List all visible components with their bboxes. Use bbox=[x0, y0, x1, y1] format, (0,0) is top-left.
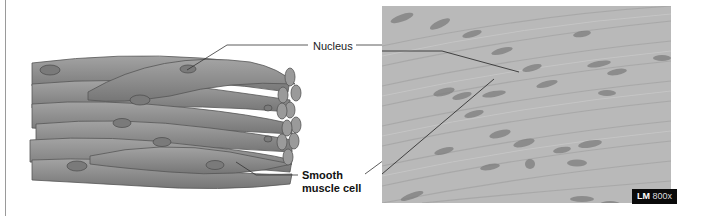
technique-label: LM bbox=[637, 191, 650, 201]
magnification-badge: LM 800x bbox=[632, 189, 677, 204]
light-micrograph bbox=[382, 6, 671, 203]
magnification-value: 800x bbox=[653, 191, 673, 201]
nucleus-label: Nucleus bbox=[310, 40, 356, 52]
smooth-muscle-label-line1: Smooth bbox=[302, 169, 361, 182]
smooth-muscle-label-line2: muscle cell bbox=[302, 182, 361, 195]
micrograph-texture bbox=[382, 6, 671, 203]
smooth-muscle-cell-label: Smooth muscle cell bbox=[302, 169, 361, 195]
